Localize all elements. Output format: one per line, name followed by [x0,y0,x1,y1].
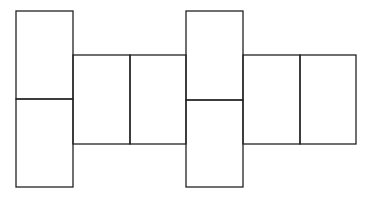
net-face-2 [16,99,73,187]
net-diagram [0,0,371,197]
net-face-5 [186,11,243,100]
net-face-7 [243,55,300,144]
net-face-1 [16,11,73,99]
net-face-6 [186,100,243,187]
net-face-8 [300,55,356,144]
net-face-3 [73,55,130,144]
net-face-4 [130,55,186,144]
